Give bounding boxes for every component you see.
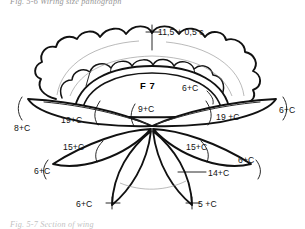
dim-wing-left-tip: 8+C [14,123,30,133]
dim-bottom-right-span: 14+C [208,168,229,178]
figure-caption-bottom: Fig. 5-7 Section of wing [10,220,305,229]
dim-crown-top: 11,5 + 0,5 c [158,27,204,37]
dim-bottom-left-tip: 6+C [76,199,92,209]
line-drawing: 11,5 + 0,5 c F 7 6+C 9+C 19+C 8+C 19 +C … [0,0,305,229]
dim-dome-right: 6+C [182,83,198,93]
dim-center-hub: 9+C [138,104,154,114]
dim-wing-right-inner: 19 +C [216,112,240,122]
dim-petal-left-inner: 15+C [63,142,84,152]
dim-petal-right-tip: 6+C [238,155,254,165]
center-label: F 7 [140,80,155,91]
dim-bottom-right-tip: 5 +C [198,199,217,209]
wing-left-tip-arc [18,97,22,120]
figure-page: Fig. 5-6 Wiring size pantograph [0,0,305,229]
dim-petal-right-inner: 15+C [186,142,207,152]
petal-right-tip-arc [256,160,260,179]
dim-petal-left-tip: 6+C [34,166,50,176]
dim-wing-right-tip: 6+C [279,105,295,115]
dim-wing-left-inner: 19+C [61,115,82,125]
